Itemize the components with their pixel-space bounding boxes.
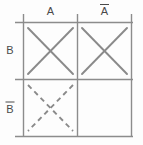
column-header-a: A xyxy=(47,5,55,17)
cell-mark-a-b xyxy=(28,28,73,74)
karnaugh-map-diagram: A A B B xyxy=(0,0,143,145)
column-header-a-not: A xyxy=(101,5,109,17)
row-header-b-not: B xyxy=(6,103,13,115)
cell-mark-a-bnot xyxy=(28,85,73,131)
cell-mark-anot-b xyxy=(82,28,127,74)
row-header-b: B xyxy=(6,44,13,56)
kmap-canvas: A A B B xyxy=(0,0,143,145)
